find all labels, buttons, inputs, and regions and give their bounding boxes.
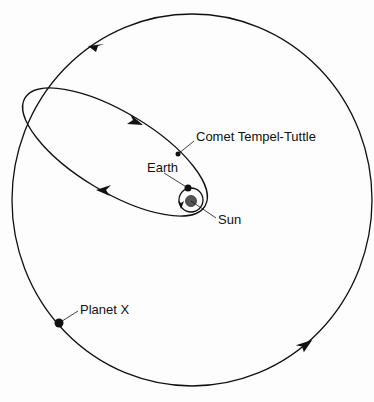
- sun-label: Sun: [218, 212, 241, 227]
- earth-label: Earth: [147, 160, 178, 175]
- orbit-diagram: Comet Tempel-Tuttle Earth Sun Planet X: [0, 0, 374, 402]
- diagram-canvas: Comet Tempel-Tuttle Earth Sun Planet X: [0, 0, 374, 402]
- comet-leader-line: [178, 141, 194, 154]
- earth-leader-line: [164, 173, 188, 188]
- planet-x-label: Planet X: [80, 302, 129, 317]
- orbit-arrow-icon: [88, 44, 104, 52]
- comet-orbit: [4, 64, 225, 241]
- orbit-arrow-icon: [127, 114, 143, 125]
- planet-x-leader-line: [59, 311, 78, 323]
- orbit-arrow-icon: [96, 185, 111, 196]
- sun-leader-line: [191, 201, 216, 218]
- orbit-arrow-icon: [178, 201, 184, 209]
- orbit-arrow-icon: [295, 340, 313, 353]
- comet-label: Comet Tempel-Tuttle: [196, 129, 316, 144]
